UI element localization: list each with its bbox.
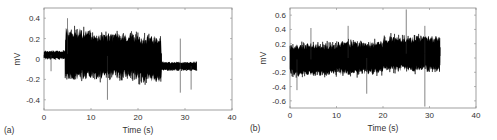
y-axis-label: mV	[258, 51, 268, 64]
chart-panel-b: 010203040-0.6-0.4-0.200.20.40.6Time (s)m…	[250, 8, 481, 133]
y-tick-label: 0	[282, 54, 287, 63]
y-tick-label: 0.2	[29, 35, 41, 44]
x-tick-label: 10	[332, 111, 341, 120]
y-tick-label: 0.4	[29, 14, 41, 23]
panel-label: (b)	[250, 123, 261, 133]
y-tick-label: -0.4	[272, 83, 286, 92]
y-tick-label: 0	[36, 55, 41, 64]
x-tick-label: 40	[472, 111, 481, 120]
y-tick-label: -0.6	[272, 97, 286, 106]
chart-canvas: 010203040-0.4-0.200.20.4Time (s)mV(a) 01…	[0, 0, 497, 140]
x-tick-label: 0	[42, 113, 47, 122]
y-tick-label: -0.2	[272, 68, 286, 77]
x-tick-label: 30	[425, 111, 434, 120]
y-tick-label: -0.4	[26, 96, 40, 105]
signal-envelope	[290, 36, 440, 76]
x-axis-label: Time (s)	[123, 125, 154, 135]
panel-label: (a)	[4, 125, 15, 135]
chart-panel-a: 010203040-0.4-0.200.20.4Time (s)mV(a)	[4, 8, 237, 135]
x-axis-label: Time (s)	[368, 123, 399, 133]
x-tick-label: 20	[379, 111, 388, 120]
x-tick-label: 20	[134, 113, 143, 122]
y-tick-label: -0.2	[26, 75, 40, 84]
x-tick-label: 10	[87, 113, 96, 122]
x-tick-label: 0	[288, 111, 293, 120]
x-tick-label: 40	[228, 113, 237, 122]
y-tick-label: 0.2	[275, 40, 287, 49]
x-tick-label: 30	[181, 113, 190, 122]
y-tick-label: 0.4	[275, 25, 287, 34]
y-axis-label: mV	[12, 52, 22, 65]
y-tick-label: 0.6	[275, 11, 287, 20]
